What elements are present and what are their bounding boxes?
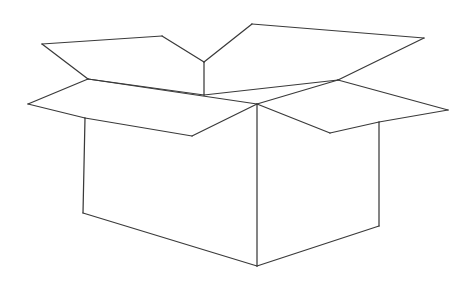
open-box-illustration [0, 0, 475, 285]
drawing-canvas [0, 0, 475, 285]
